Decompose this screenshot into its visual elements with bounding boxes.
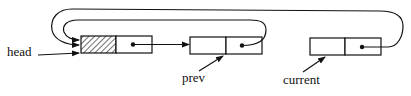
linked-list-diagram: head prev current — [0, 0, 411, 96]
current-node-data-cell — [310, 38, 345, 55]
head-pointer-arrow — [38, 53, 79, 55]
head-node-data-cell — [81, 36, 116, 53]
head-label: head — [7, 44, 32, 59]
current-label: current — [283, 72, 320, 87]
prev-node-data-cell — [190, 37, 226, 54]
prev-pointer-arrow — [199, 56, 223, 71]
prev-node — [190, 37, 262, 54]
prev-label: prev — [182, 70, 206, 85]
current-pointer-arrow — [303, 57, 325, 72]
